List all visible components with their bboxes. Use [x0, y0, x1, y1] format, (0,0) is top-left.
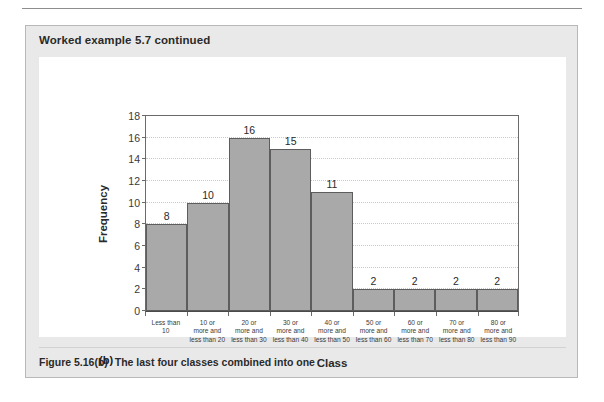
figure-caption: Figure 5.16(b) The last four classes com…: [39, 356, 315, 368]
y-axis-tick-label: 2: [134, 283, 140, 295]
bar-slot: 2: [435, 116, 476, 311]
bar: [311, 192, 352, 311]
y-axis-tick-label: 16: [128, 132, 140, 144]
bar: [435, 289, 476, 311]
bar-value-label: 2: [353, 275, 394, 287]
page-title: Worked example 5.7 continued: [39, 34, 210, 46]
page-top-rule: [22, 8, 582, 9]
bar-slot: 10: [187, 116, 228, 311]
bar-value-label: 2: [435, 275, 476, 287]
x-axis-category: 10 ormore andless than 20: [187, 312, 229, 356]
y-axis-tick-label: 0: [134, 305, 140, 317]
histogram-chart: Frequency 024681012141618 8101615112222 …: [39, 57, 566, 337]
y-axis-tick-label: 8: [134, 218, 140, 230]
bar-series: 8101615112222: [146, 116, 518, 311]
bar: [229, 138, 270, 311]
bar-slot: 16: [229, 116, 270, 311]
bar: [187, 203, 228, 311]
caption-separator: [39, 347, 566, 348]
bar-slot: 11: [311, 116, 352, 311]
bar-value-label: 2: [394, 275, 435, 287]
bar-slot: 15: [270, 116, 311, 311]
x-axis-category: 50 ormore andless than 60: [353, 312, 395, 356]
bar-value-label: 2: [477, 275, 518, 287]
x-axis-tick-mark: [311, 312, 312, 316]
x-axis-category: 40 ormore andless than 50: [311, 312, 353, 356]
x-axis-tick-mark: [270, 312, 271, 316]
bar-value-label: 8: [146, 210, 187, 222]
figure-area: Frequency 024681012141618 8101615112222 …: [39, 57, 566, 337]
y-axis-title: Frequency: [95, 115, 111, 312]
x-axis-category: 70 ormore andless than 80: [436, 312, 478, 356]
x-axis-tick-mark: [353, 312, 354, 316]
bar: [353, 289, 394, 311]
x-axis-category: 30 ormore andless than 40: [270, 312, 312, 356]
bar-slot: 2: [394, 116, 435, 311]
x-axis-tick-mark: [436, 312, 437, 316]
figure-caption-text: The last four classes combined into one: [115, 356, 315, 368]
bar-value-label: 10: [187, 189, 228, 201]
y-axis-tick-label: 14: [128, 153, 140, 165]
bar-slot: 2: [353, 116, 394, 311]
bar: [477, 289, 518, 311]
bar-slot: 8: [146, 116, 187, 311]
bar-value-label: 11: [311, 178, 352, 190]
bar-value-label: 16: [229, 124, 270, 136]
panel-header: Worked example 5.7 continued: [26, 26, 577, 57]
y-axis-tick-label: 18: [128, 110, 140, 122]
x-axis-tick-mark: [478, 312, 479, 316]
x-axis-tick-mark: [228, 312, 229, 316]
bar-slot: 2: [477, 116, 518, 311]
y-axis-tick-label: 4: [134, 262, 140, 274]
x-axis-tick-mark: [518, 312, 519, 316]
x-axis-categories: Less than1010 ormore andless than 2020 o…: [145, 312, 519, 356]
bar: [270, 149, 311, 312]
y-axis-title-label: Frequency: [97, 184, 109, 242]
plot-area: 024681012141618 8101615112222: [145, 115, 519, 312]
x-axis-category: 20 ormore andless than 30: [228, 312, 270, 356]
figure-caption-number: Figure 5.16(b): [39, 356, 108, 368]
y-axis-tick-label: 6: [134, 240, 140, 252]
x-axis-category-label: 80 ormore andless than 90: [474, 319, 524, 344]
bar: [394, 289, 435, 311]
bar: [146, 224, 187, 311]
worked-example-panel: Worked example 5.7 continued Frequency 0…: [25, 25, 578, 378]
bar-value-label: 15: [270, 135, 311, 147]
x-axis-category: Less than10: [145, 312, 187, 356]
x-axis-tick-mark: [187, 312, 188, 316]
x-axis-category: 60 ormore andless than 70: [394, 312, 436, 356]
y-axis-tick-label: 12: [128, 175, 140, 187]
x-axis-category: 80 ormore andless than 90: [478, 312, 520, 356]
y-axis-tick-label: 10: [128, 197, 140, 209]
x-axis-tick-mark: [394, 312, 395, 316]
x-axis-tick-mark: [145, 312, 146, 316]
